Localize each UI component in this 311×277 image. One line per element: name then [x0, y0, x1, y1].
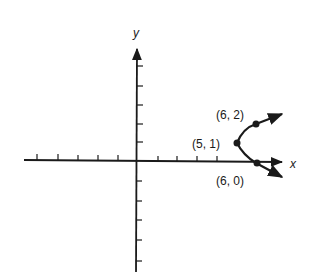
point-label-6-0: (6, 0): [216, 174, 244, 188]
point-6-0: [254, 160, 261, 167]
point-6-2: [253, 121, 260, 128]
point-label-6-2: (6, 2): [216, 108, 244, 122]
parabola-lower-branch: [237, 143, 282, 177]
x-axis: [24, 160, 282, 162]
coordinate-plane: y x (6, 2) (5, 1) (6, 0): [0, 0, 311, 277]
y-axis-label: y: [132, 26, 140, 40]
y-axis: [136, 49, 137, 272]
x-axis-label: x: [289, 157, 297, 171]
point-5-1: [234, 140, 241, 147]
point-label-5-1: (5, 1): [192, 137, 220, 151]
